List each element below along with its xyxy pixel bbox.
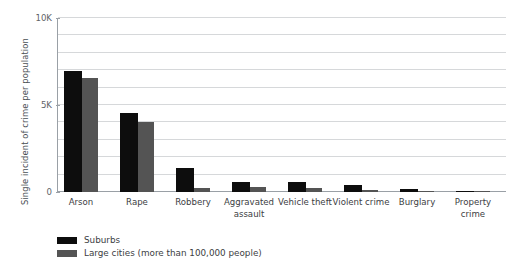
- bar-large-cities[interactable]: [250, 187, 266, 192]
- bars-layer: [57, 18, 505, 192]
- bar-suburbs[interactable]: [288, 182, 306, 192]
- x-tick-label: Burglary: [387, 197, 447, 209]
- x-tick-label: Vehicle theft: [275, 197, 335, 209]
- bar-large-cities[interactable]: [418, 191, 434, 192]
- bar-chart: Single incident of crime per population …: [0, 0, 532, 266]
- bar-large-cities[interactable]: [194, 188, 210, 192]
- bar-group: [120, 18, 154, 192]
- y-tick-label: 10K: [12, 13, 52, 23]
- bar-suburbs[interactable]: [64, 71, 82, 192]
- y-tick-label: 0: [12, 187, 52, 197]
- y-axis-ticks: 05K10K: [8, 0, 52, 192]
- x-tick-label: Violent crime: [331, 197, 391, 209]
- x-axis-labels: ArsonRapeRobberyAggravated assaultVehicl…: [57, 197, 505, 231]
- chart-legend: SuburbsLarge cities (more than 100,000 p…: [57, 234, 262, 260]
- x-tick-label: Aggravated assault: [219, 197, 279, 220]
- bar-suburbs[interactable]: [232, 182, 250, 192]
- bar-group: [176, 18, 210, 192]
- legend-item[interactable]: Suburbs: [57, 234, 262, 247]
- legend-swatch-icon: [57, 237, 77, 244]
- legend-item[interactable]: Large cities (more than 100,000 people): [57, 247, 262, 260]
- bar-large-cities[interactable]: [82, 78, 98, 192]
- x-tick-label: Rape: [107, 197, 167, 209]
- bar-suburbs[interactable]: [400, 189, 418, 192]
- legend-label: Large cities (more than 100,000 people): [84, 248, 262, 259]
- bar-suburbs[interactable]: [456, 191, 474, 192]
- bar-large-cities[interactable]: [474, 191, 490, 192]
- bar-group: [288, 18, 322, 192]
- bar-group: [232, 18, 266, 192]
- y-tick-label: 5K: [12, 100, 52, 110]
- bar-suburbs[interactable]: [176, 168, 194, 192]
- legend-label: Suburbs: [84, 235, 120, 246]
- bar-large-cities[interactable]: [138, 122, 154, 192]
- bar-suburbs[interactable]: [344, 185, 362, 192]
- legend-swatch-icon: [57, 250, 77, 257]
- bar-group: [400, 18, 434, 192]
- bar-large-cities[interactable]: [362, 190, 378, 192]
- bar-group: [344, 18, 378, 192]
- bar-group: [64, 18, 98, 192]
- x-tick-label: Arson: [51, 197, 111, 209]
- y-tick-mark: [56, 192, 60, 193]
- x-tick-label: Robbery: [163, 197, 223, 209]
- bar-large-cities[interactable]: [306, 188, 322, 192]
- bar-suburbs[interactable]: [120, 113, 138, 192]
- bar-group: [456, 18, 490, 192]
- x-tick-label: Property crime: [443, 197, 503, 220]
